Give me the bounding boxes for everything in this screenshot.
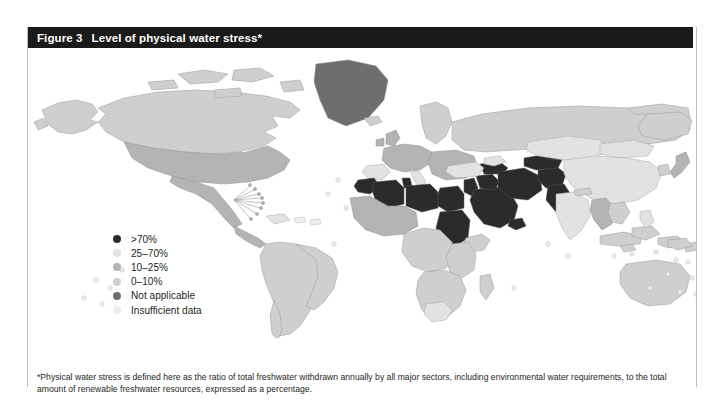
legend-item-10-25: 10‒25% [113, 260, 263, 274]
legend-label-0-10: 0‒10% [131, 276, 162, 287]
region-iberia [362, 164, 390, 180]
region-madagascar [480, 274, 494, 300]
legend-swatch-not-applicable [113, 292, 121, 300]
legend-item-insufficient-data: Insufficient data [113, 303, 263, 317]
legend-label-insufficient-data: Insufficient data [131, 305, 202, 316]
legend-label-10-25: 10‒25% [131, 262, 168, 273]
legend-item-gt-70: >70% [113, 232, 263, 246]
region-siberia-east [638, 112, 692, 140]
legend-swatch-gt-70 [113, 235, 121, 243]
region-libya [406, 184, 438, 212]
legend-swatch-insufficient-data [113, 306, 121, 314]
legend-label-not-applicable: Not applicable [131, 290, 195, 301]
region-korea [658, 164, 670, 176]
region-australia [620, 260, 690, 306]
region-philippines [640, 210, 654, 228]
legend-item-not-applicable: Not applicable [113, 289, 263, 303]
region-egypt [438, 186, 464, 212]
region-japan [670, 152, 690, 178]
region-india [556, 192, 590, 240]
figure-footnote: *Physical water stress is defined here a… [37, 371, 685, 396]
region-united-kingdom [386, 130, 400, 146]
legend-item-0-10: 0‒10% [113, 275, 263, 289]
legend-swatch-0-10 [113, 278, 121, 286]
figure-header-bar: Figure 3 Level of physical water stress* [28, 27, 693, 48]
figure-title: Level of physical water stress* [92, 32, 263, 44]
legend-label-25-70: 25‒70% [131, 248, 168, 259]
region-alaska [42, 100, 98, 134]
legend-label-gt-70: >70% [131, 234, 157, 245]
region-mexico [170, 176, 242, 228]
region-yemen-oman [508, 218, 526, 230]
region-indochina [608, 202, 630, 224]
region-western-europe [382, 144, 432, 172]
figure-container: Figure 3 Level of physical water stress*… [27, 27, 697, 387]
map-legend: >70% 25‒70% 10‒25% 0‒10% Not applicable … [113, 232, 263, 317]
region-scandinavia [420, 102, 452, 144]
legend-item-25-70: 25‒70% [113, 246, 263, 260]
figure-number: Figure 3 [37, 32, 83, 44]
legend-swatch-25-70 [113, 249, 121, 257]
legend-swatch-10-25 [113, 263, 121, 271]
